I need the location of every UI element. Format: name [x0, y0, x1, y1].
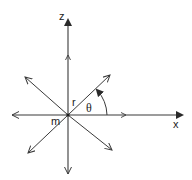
- radius-label: r: [72, 97, 76, 108]
- theta-label: θ: [86, 102, 92, 114]
- mass-label: m: [51, 116, 60, 127]
- x-axis-label: x: [173, 119, 179, 130]
- theta-arc: [97, 90, 107, 115]
- polar-diagram: z x r θ m: [0, 0, 192, 180]
- diagram-drawing: [0, 0, 192, 180]
- origin-point: [66, 113, 69, 116]
- z-axis-label: z: [59, 11, 65, 22]
